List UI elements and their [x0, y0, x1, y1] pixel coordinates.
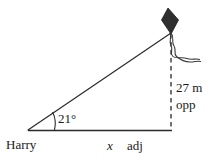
angle-label: 21°: [58, 112, 76, 125]
opposite-side-name-label: opp: [176, 98, 196, 111]
kite-trigonometry-diagram: 21° 27 m opp Harry x adj: [0, 0, 211, 162]
kite-tail-icon: [170, 33, 201, 62]
hypotenuse-string-line: [28, 33, 171, 130]
kite-icon: [162, 8, 179, 34]
adjacent-side-name-label: adj: [127, 139, 143, 152]
angle-arc: [53, 112, 56, 130]
adjacent-variable-label: x: [107, 139, 113, 152]
opposite-height-value-label: 27 m: [176, 81, 202, 94]
person-label-harry: Harry: [6, 138, 36, 151]
